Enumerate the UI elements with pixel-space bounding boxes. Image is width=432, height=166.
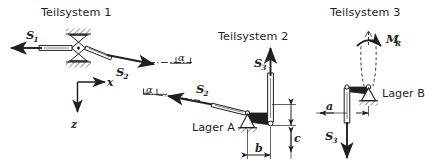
dimension-label-a: a — [326, 100, 333, 113]
force-subscript-s2-ts2: 2 — [203, 89, 209, 98]
dimension-label-c: c — [294, 132, 301, 145]
diagram-background — [0, 0, 432, 166]
force-subscript-s1: 1 — [34, 35, 39, 44]
title-teilsystem-3: Teilsystem 3 — [329, 6, 400, 19]
ground-support-lower — [66, 62, 91, 68]
force-subscript-s3-ts2: 3 — [262, 63, 267, 72]
axis-label-z: z — [70, 118, 78, 130]
bar-member-vertical-ts3 — [344, 85, 350, 123]
moment-subscript-mr: R — [394, 39, 401, 48]
engineering-diagram: Teilsystem 1 — [0, 0, 432, 166]
title-teilsystem-2: Teilsystem 2 — [217, 30, 288, 43]
ground-support-upper — [66, 29, 91, 35]
bar-member-vertical-ts2 — [268, 73, 274, 126]
bearing-label-lager-b: Lager B — [382, 87, 425, 100]
bar-member-left — [39, 46, 72, 51]
bearing-label-lager-a: Lager A — [192, 121, 235, 134]
title-teilsystem-1: Teilsystem 1 — [40, 6, 111, 19]
force-subscript-s2-ts1: 2 — [123, 72, 129, 81]
dimension-label-b: b — [255, 142, 263, 155]
force-subscript-s3-ts3: 3 — [333, 136, 338, 145]
axis-label-x: x — [106, 76, 114, 88]
angle-label-alpha-ts2: α — [146, 84, 153, 95]
angle-label-alpha-ts1: α — [178, 52, 185, 63]
